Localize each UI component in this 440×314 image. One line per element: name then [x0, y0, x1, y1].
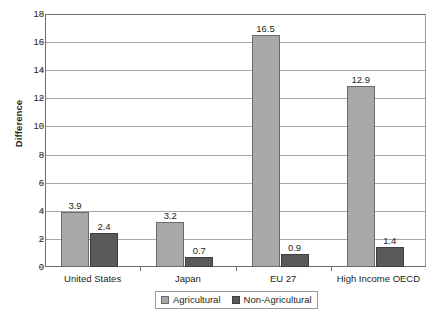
bar-group: 3.92.4: [45, 14, 140, 267]
legend-swatch-icon: [161, 296, 169, 304]
bar[interactable]: [376, 247, 404, 267]
bar-group: 12.91.4: [331, 14, 426, 267]
legend-swatch-icon: [232, 296, 240, 304]
y-axis-tick-label: 18: [4, 9, 44, 19]
bar[interactable]: [90, 233, 118, 267]
y-axis-tick-mark: [40, 126, 44, 127]
bar-groups: 3.92.43.20.716.50.912.91.4: [45, 14, 426, 267]
bar-value-label: 16.5: [244, 23, 288, 34]
bar-chart: Difference 181614121086420 3.92.43.20.71…: [0, 0, 440, 314]
y-axis-tick-label: 16: [4, 37, 44, 47]
bar-value-label: 3.9: [53, 200, 97, 211]
x-axis-category-label: Japan: [140, 272, 235, 285]
y-axis-tick-mark: [40, 267, 44, 268]
y-axis-tick-labels: 181614121086420: [0, 14, 44, 267]
bar-value-label: 0.9: [273, 242, 317, 253]
bar-value-label: 12.9: [339, 74, 383, 85]
bar-value-label: 2.4: [82, 221, 126, 232]
bar-value-label: 1.4: [368, 235, 412, 246]
y-axis-tick-mark: [40, 70, 44, 71]
bar[interactable]: [281, 254, 309, 267]
x-axis-category-label: High Income OECD: [331, 272, 426, 285]
bar-group: 3.20.7: [140, 14, 235, 267]
y-axis-tick-mark: [40, 42, 44, 43]
y-axis-tick-mark: [40, 238, 44, 239]
legend-label: Agricultural: [173, 294, 221, 305]
legend-label: Non-Agricultural: [244, 294, 312, 305]
bar[interactable]: [252, 35, 280, 267]
y-axis-tick-mark: [40, 210, 44, 211]
y-axis-tick-label: 4: [4, 206, 44, 216]
chart-legend: AgriculturalNon-Agricultural: [155, 291, 318, 309]
y-axis-tick-label: 14: [4, 65, 44, 75]
x-axis-category-labels: United StatesJapanEU 27High Income OECD: [45, 272, 426, 288]
x-axis-category-label: EU 27: [236, 272, 331, 285]
x-axis-category-label: United States: [45, 272, 140, 285]
y-axis-tick-label: 6: [4, 178, 44, 188]
bar-value-label: 3.2: [148, 210, 192, 221]
y-axis-tick-mark: [40, 14, 44, 15]
y-axis-tick-label: 12: [4, 93, 44, 103]
y-axis-tick-label: 8: [4, 150, 44, 160]
x-axis-tick-mark: [331, 267, 332, 271]
y-axis-tick-label: 10: [4, 121, 44, 131]
legend-item[interactable]: Non-Agricultural: [232, 294, 312, 305]
bar-group: 16.50.9: [236, 14, 331, 267]
x-axis-tick-mark: [236, 267, 237, 271]
y-axis-tick-mark: [40, 154, 44, 155]
bar[interactable]: [185, 257, 213, 267]
y-axis-tick-label: 0: [4, 262, 44, 272]
legend-item[interactable]: Agricultural: [161, 294, 221, 305]
y-axis-tick-mark: [40, 182, 44, 183]
x-axis-tick-mark: [140, 267, 141, 271]
y-axis-tick-label: 2: [4, 234, 44, 244]
bar-value-label: 0.7: [177, 245, 221, 256]
y-axis-tick-mark: [40, 98, 44, 99]
